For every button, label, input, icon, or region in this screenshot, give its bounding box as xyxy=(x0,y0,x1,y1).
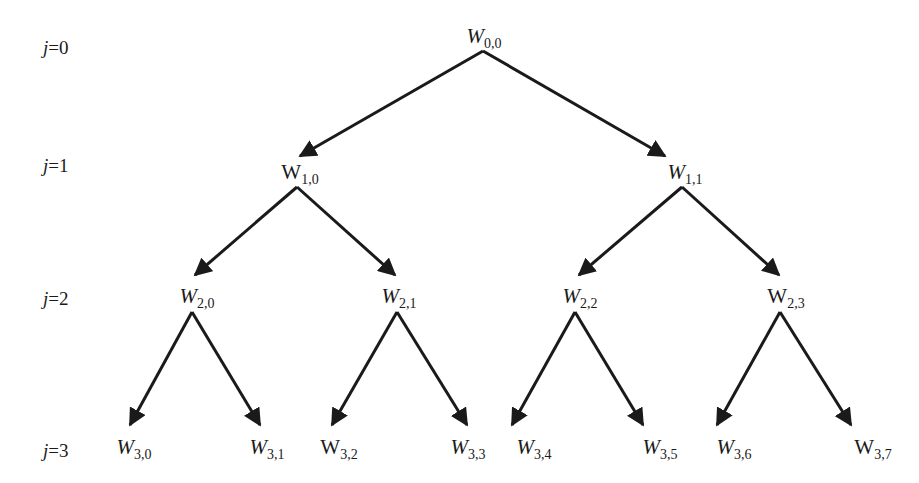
level-label-1: j=1 xyxy=(43,155,69,177)
edge-w23-w37 xyxy=(780,312,851,425)
edge-w11-w23 xyxy=(682,187,779,275)
node-w23: W2,3 xyxy=(767,286,804,311)
edge-w22-w34 xyxy=(512,312,575,425)
node-w11: W1,1 xyxy=(668,162,703,187)
node-w36: W3,6 xyxy=(717,437,752,462)
node-w10: W1,0 xyxy=(281,162,318,187)
edge-w20-w30 xyxy=(130,312,192,425)
node-w34: W3,4 xyxy=(517,437,552,462)
node-w33: W3,3 xyxy=(451,437,486,462)
edge-w21-w32 xyxy=(332,312,397,425)
node-w31: W3,1 xyxy=(250,437,285,462)
tree-edges xyxy=(0,0,919,483)
node-w35: W3,5 xyxy=(643,437,678,462)
edge-w11-w22 xyxy=(579,187,682,275)
edge-w21-w33 xyxy=(397,312,467,425)
node-w00: W0,0 xyxy=(467,26,502,51)
node-w37: W3,7 xyxy=(854,437,891,462)
node-w22: W2,2 xyxy=(563,286,598,311)
level-label-2: j=2 xyxy=(43,288,69,310)
node-w21: W2,1 xyxy=(382,286,417,311)
node-w32: W3,2 xyxy=(320,437,357,462)
edge-w10-w21 xyxy=(297,187,395,275)
edge-w22-w35 xyxy=(575,312,643,425)
level-label-0: j=0 xyxy=(43,37,69,59)
edge-w10-w20 xyxy=(195,187,297,275)
edge-w00-w11 xyxy=(483,51,665,156)
wavelet-tree-diagram: j=0 j=1 j=2 j=3 W0,0 W1,0 W1,1 W2,0 W2,1… xyxy=(0,0,919,483)
node-w20: W2,0 xyxy=(180,286,215,311)
edge-w00-w10 xyxy=(300,51,483,156)
edge-w20-w31 xyxy=(192,312,260,425)
edge-w23-w36 xyxy=(717,312,780,425)
level-label-3: j=3 xyxy=(43,440,69,462)
node-w30: W3,0 xyxy=(117,437,152,462)
